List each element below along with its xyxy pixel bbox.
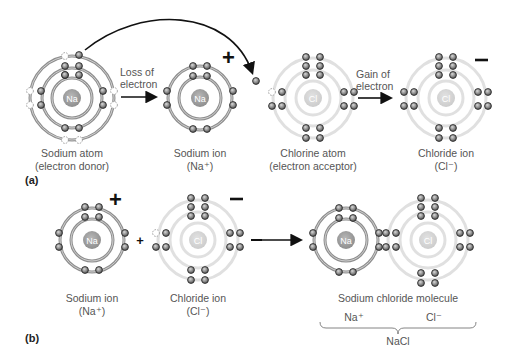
loss-line-1: Loss of (120, 66, 157, 78)
chlorine-atom-subtitle: (electron acceptor) (269, 160, 357, 173)
panel-a-label: (a) (25, 174, 38, 186)
plus-sign: + (136, 233, 144, 248)
nucleus-symbol: Cl (424, 236, 433, 246)
loss-line-2: electron (120, 78, 157, 90)
molecule-formula: NaCl (386, 335, 409, 348)
sodium-atom-title: Sodium atom (35, 147, 109, 160)
nucleus-symbol: Cl (309, 94, 318, 104)
chloride-ion-b-label: Chloride ion (Cl⁻) (170, 292, 226, 318)
sodium-atom-label: Sodium atom (electron donor) (35, 147, 109, 173)
chloride-ion-a: Cl (401, 54, 492, 142)
chlorine-atom-title: Chlorine atom (269, 147, 357, 160)
nucleus-symbol: Na (66, 94, 78, 104)
chloride-ion-label: Chloride ion (Cl⁻) (418, 147, 474, 173)
gain-line-2: electron (356, 80, 393, 92)
sodium-atom: Na (27, 52, 118, 144)
nucleus-symbol: Na (194, 94, 206, 104)
sodium-ion-subtitle: (Na⁺) (174, 160, 227, 173)
positive-charge: + (222, 45, 235, 70)
nucleus-symbol: Na (86, 236, 98, 246)
molecule-na-label: Na⁺ (344, 311, 363, 324)
chlorine-atom-label: Chlorine atom (electron acceptor) (269, 147, 357, 173)
sodium-ion-b-title: Sodium ion (66, 292, 119, 305)
molecule-cl-label: Cl⁻ (426, 311, 442, 324)
chloride-ion-b-subtitle: (Cl⁻) (170, 305, 226, 318)
nucleus-symbol: Cl (194, 236, 203, 246)
chloride-ion-b-title: Chloride ion (170, 292, 226, 305)
nucleus-symbol: Cl (442, 94, 451, 104)
sodium-ion-a: Na (164, 63, 237, 133)
sodium-ion-b-subtitle: (Na⁺) (66, 305, 119, 318)
sodium-ion-title: Sodium ion (174, 147, 227, 160)
sodium-ion-label: Sodium ion (Na⁺) (174, 147, 227, 173)
nucleus-symbol: Na (340, 236, 352, 246)
transferred-electron (253, 78, 260, 85)
sodium-ion-b-label: Sodium ion (Na⁺) (66, 292, 119, 318)
sodium-chloride-molecule: Na Cl (310, 195, 474, 287)
loss-of-electron-label: Loss of electron (120, 66, 157, 90)
panel-b-label: (b) (25, 332, 39, 344)
chlorine-atom: Cl (269, 54, 358, 142)
chloride-ion-b: Cl (153, 195, 244, 284)
chloride-ion-subtitle: (Cl⁻) (418, 160, 474, 173)
chloride-ion-title: Chloride ion (418, 147, 474, 160)
sodium-atom-subtitle: (electron donor) (35, 160, 109, 173)
gain-of-electron-label: Gain of electron (356, 68, 393, 92)
molecule-title: Sodium chloride molecule (338, 292, 458, 305)
sodium-ion-b: Na (56, 204, 129, 274)
gain-line-1: Gain of (356, 68, 393, 80)
positive-charge: + (109, 187, 122, 212)
